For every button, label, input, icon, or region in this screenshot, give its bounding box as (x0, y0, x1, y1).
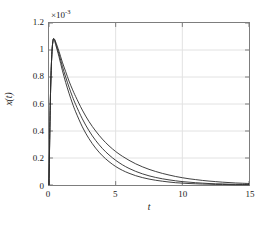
curve-path (49, 39, 249, 185)
y-axis-exponent-power: -3 (65, 8, 70, 15)
y-axis-tick-label: 0.2 (2, 154, 44, 163)
x-axis-tick-label: 10 (178, 190, 187, 199)
figure-container: ×10-3 00.20.40.60.811.2 051015 t x(t) (0, 0, 267, 225)
x-axis-tick-label: 5 (113, 190, 118, 199)
x-axis-title: t (48, 202, 250, 212)
x-axis-tick-label: 15 (246, 190, 255, 199)
y-axis-tick-label: 1.2 (2, 18, 44, 27)
y-axis-exponent-label: ×10-3 (51, 8, 71, 20)
plot-area (48, 22, 250, 186)
y-axis-tick-label: 0 (2, 182, 44, 191)
data-curves (49, 23, 249, 185)
y-axis-exponent-base: ×10 (51, 10, 65, 20)
y-axis-tick-label: 0.4 (2, 127, 44, 136)
y-axis-title: x(t) (4, 73, 14, 125)
y-axis-tick-label: 1 (2, 45, 44, 54)
x-axis-tick-label: 0 (46, 190, 51, 199)
